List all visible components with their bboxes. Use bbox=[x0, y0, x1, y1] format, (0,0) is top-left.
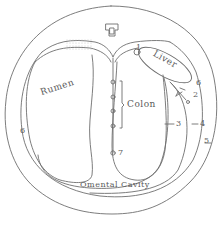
colon-bracket bbox=[120, 81, 124, 128]
label-3: 3 bbox=[176, 120, 181, 128]
arrow bbox=[176, 88, 185, 96]
label-6-right: 6 bbox=[196, 79, 201, 87]
intestinal-compartment bbox=[112, 62, 166, 180]
line-3 bbox=[38, 78, 168, 188]
abdominal-cross-section-diagram: Rumen Liver Colon Omental Cavity 1 2 3 4… bbox=[0, 0, 222, 231]
label-omental-cavity: Omental Cavity bbox=[80, 181, 150, 189]
label-6-left: 6 bbox=[20, 127, 25, 135]
label-colon: Colon bbox=[127, 100, 156, 109]
label-5: 5 bbox=[204, 137, 209, 145]
structure-2 bbox=[187, 101, 190, 104]
diagram-lines bbox=[0, 0, 222, 231]
label-7: 7 bbox=[118, 149, 123, 157]
rumen-outline bbox=[26, 55, 93, 183]
label-4: 4 bbox=[200, 120, 205, 128]
stippled-mass bbox=[66, 38, 92, 50]
vertebra-icon bbox=[106, 24, 118, 36]
label-2: 2 bbox=[193, 91, 198, 99]
label-1: 1 bbox=[136, 44, 141, 52]
ligament bbox=[171, 83, 186, 100]
